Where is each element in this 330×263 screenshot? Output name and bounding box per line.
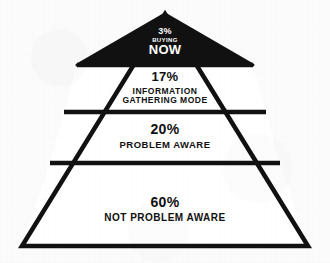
tier-1-text-group: 3% BUYING NOW	[0, 27, 330, 56]
tier-4-percent: 60%	[0, 195, 330, 210]
tier-3-label: PROBLEM AWARE	[0, 140, 330, 150]
tier-3-percent: 20%	[0, 122, 330, 137]
tier-1-label: NOW	[0, 43, 330, 57]
tier-4-text-group: 60% NOT PROBLEM AWARE	[0, 195, 330, 223]
pyramid-diagram: 3% BUYING NOW 17% INFORMATION GATHERING …	[0, 0, 330, 263]
tier-2-percent: 17%	[0, 70, 330, 84]
tier-4-label: NOT PROBLEM AWARE	[0, 213, 330, 224]
tier-3-text-group: 20% PROBLEM AWARE	[0, 122, 330, 150]
tier-1-percent: 3%	[0, 27, 330, 36]
tier-2-label-line-2: GATHERING MODE	[0, 96, 330, 105]
tier-2-text-group: 17% INFORMATION GATHERING MODE	[0, 70, 330, 104]
